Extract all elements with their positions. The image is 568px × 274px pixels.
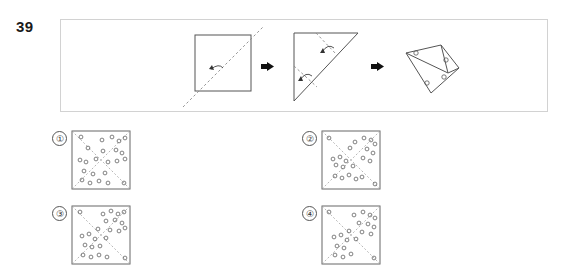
punch-hole: [120, 151, 124, 155]
unfolded-paper-2: [320, 129, 382, 191]
punch-hole: [103, 171, 107, 175]
punch-hole: [365, 147, 369, 151]
option-3[interactable]: ③: [50, 200, 300, 272]
punch-hole: [104, 219, 108, 223]
punch-hole: [340, 176, 344, 180]
punch-hole: [93, 237, 97, 241]
punch-hole: [101, 212, 105, 216]
option-3-figure: [70, 204, 132, 266]
punch-hole: [100, 138, 104, 142]
punch-hole: [357, 221, 361, 225]
punch-hole: [108, 228, 112, 232]
option-1-figure: [70, 129, 132, 191]
unfolded-paper-3: [70, 204, 132, 266]
option-4[interactable]: ④: [300, 200, 550, 272]
punch-hole: [98, 244, 102, 248]
punch-hole: [106, 160, 110, 164]
punch-hole: [333, 174, 337, 178]
punch-hole: [109, 209, 113, 213]
punch-hole: [361, 210, 365, 214]
option-3-marker: ③: [52, 206, 67, 221]
option-1[interactable]: ①: [50, 125, 300, 197]
option-4-marker: ④: [302, 206, 317, 221]
punch-hole: [353, 140, 357, 144]
punch-hole: [90, 245, 94, 249]
punch-hole: [368, 159, 372, 163]
punch-hole: [366, 222, 370, 226]
punch-hole: [84, 160, 88, 164]
punch-hole: [97, 179, 101, 183]
punch-hole: [361, 156, 365, 160]
answer-options: ① ② ③ ④: [0, 122, 568, 274]
punch-hole: [360, 230, 364, 234]
punch-hole: [373, 142, 377, 146]
punch-hole: [80, 234, 84, 238]
punch-hole: [333, 253, 337, 257]
unfolded-paper-1: [70, 129, 132, 191]
step-3-folded-shape-with-punches: [406, 45, 459, 93]
fold-sequence-diagram: [61, 20, 547, 111]
folded-shape-crease: [406, 45, 448, 73]
option-2-figure: [320, 129, 382, 191]
punch-hole: [106, 181, 110, 185]
sequence-arrow-1-icon: [261, 62, 274, 71]
punch-hole: [83, 243, 87, 247]
punch-hole: [360, 175, 364, 179]
punch-hole: [332, 235, 336, 239]
punch-hole: [87, 232, 91, 236]
punch-hole: [342, 246, 346, 250]
punch-hole: [117, 229, 121, 233]
punch-hole: [78, 210, 82, 214]
punch-hole: [79, 135, 83, 139]
punch-hole: [352, 213, 356, 217]
punch-hole: [339, 233, 343, 237]
stem-panel: [60, 19, 548, 112]
punch-hole: [94, 157, 98, 161]
punch-hole: [354, 177, 358, 181]
punch-hole: [123, 157, 127, 161]
punch-hole: [81, 253, 85, 257]
option-2-marker: ②: [302, 131, 317, 146]
unfolded-paper-4: [320, 204, 382, 266]
option-1-marker: ①: [52, 131, 67, 146]
punch-hole: [104, 236, 108, 240]
step-2-triangle-with-two-folds: [294, 33, 358, 101]
fold-crease-top-dashed: [316, 33, 336, 54]
punch-hole: [347, 173, 351, 177]
step-1-square-with-diagonal-fold: [183, 27, 263, 107]
option-2[interactable]: ②: [300, 125, 550, 197]
punch-hole: [369, 232, 373, 236]
punch-hole: [334, 163, 338, 167]
option-4-figure: [320, 204, 382, 266]
paper-square: [195, 35, 251, 91]
punch-hole: [78, 158, 82, 162]
punch-hole: [88, 181, 92, 185]
punch-hole: [101, 149, 105, 153]
punch-hole: [351, 164, 355, 168]
punch-hole: [362, 136, 366, 140]
punch-hole: [116, 212, 120, 216]
punch-hole: [371, 151, 375, 155]
punch-hole: [338, 155, 342, 159]
punch-hole: [91, 172, 95, 176]
fold-crease-left-dashed: [294, 66, 317, 87]
punch-hole: [348, 146, 352, 150]
punch-hole: [349, 252, 353, 256]
punch-hole: [120, 221, 124, 225]
punch-hole: [331, 157, 335, 161]
punch-hole: [335, 244, 339, 248]
punch-hole: [110, 135, 114, 139]
punch-hole: [372, 225, 376, 229]
question-number: 39: [16, 18, 33, 35]
punch-hole: [114, 148, 118, 152]
punch-hole: [115, 159, 119, 163]
punch-hole: [123, 226, 127, 230]
punch-hole: [344, 159, 348, 163]
punch-hole: [341, 255, 345, 259]
folded-triangle: [294, 33, 358, 101]
punch-hole: [97, 253, 101, 257]
punch-hole: [96, 227, 100, 231]
sequence-arrow-2-icon: [371, 62, 384, 71]
punch-hole: [442, 75, 446, 79]
punch-hole: [347, 229, 351, 233]
